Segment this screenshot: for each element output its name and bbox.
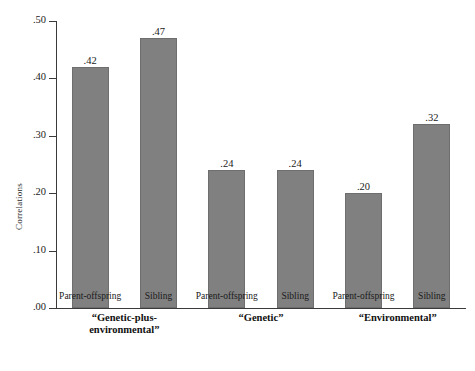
bar-value-label: .24 (220, 158, 233, 169)
bar: .24 (277, 170, 314, 308)
bar: .42 (72, 67, 109, 308)
y-axis-tick: .30 (49, 136, 56, 137)
category-label: Sibling (145, 291, 172, 301)
y-axis-tick-label: .00 (33, 301, 46, 312)
y-axis-title: Correlations (2, 0, 12, 112)
y-axis-tick: .00 (49, 308, 56, 309)
y-axis-tick-label: .10 (33, 244, 46, 255)
y-axis-tick-label: .20 (33, 186, 46, 197)
category-label: Sibling (418, 291, 445, 301)
y-axis-tick-label: .50 (33, 14, 46, 25)
bar: .47 (140, 38, 177, 308)
category-label: Sibling (281, 291, 308, 301)
y-axis-tick: .20 (49, 193, 56, 194)
bar: .24 (208, 170, 245, 308)
category-label: Parent-offspring (332, 291, 394, 301)
plot-area: .50.40.30.20.10.00 .42.47.24.24.20.32 (56, 21, 466, 308)
y-axis-tick-label: .30 (33, 129, 46, 140)
group-label: “Environmental” (359, 312, 437, 324)
category-label: Parent-offspring (59, 291, 121, 301)
y-axis-tick: .40 (49, 78, 56, 79)
y-axis-title-label: Correlations (14, 100, 24, 230)
bar-chart: Correlations .50.40.30.20.10.00 .42.47.2… (0, 0, 475, 371)
y-axis-line (56, 21, 57, 308)
x-axis-line (56, 308, 466, 309)
bar-value-label: .20 (357, 181, 370, 192)
y-axis-tick-label: .40 (33, 71, 46, 82)
bar-value-label: .42 (84, 55, 97, 66)
group-label: “Genetic” (239, 312, 284, 324)
bar-value-label: .47 (152, 26, 165, 37)
bar-value-label: .32 (425, 112, 438, 123)
bar-value-label: .24 (289, 158, 302, 169)
group-label: “Genetic-plus- environmental” (89, 312, 159, 336)
y-axis-tick: .10 (49, 251, 56, 252)
y-axis-tick: .50 (49, 21, 56, 22)
category-label: Parent-offspring (196, 291, 258, 301)
bar: .32 (413, 124, 450, 308)
